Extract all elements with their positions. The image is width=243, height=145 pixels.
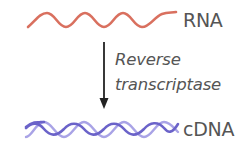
enzyme-label-line1: Reverse [115,52,181,69]
arrow-down-icon [100,98,109,109]
enzyme-label-line2: transcriptase [115,77,221,94]
cdna-label: cDNA [183,120,234,139]
rna-label: RNA [183,11,223,30]
rna-strand-icon [28,12,176,27]
